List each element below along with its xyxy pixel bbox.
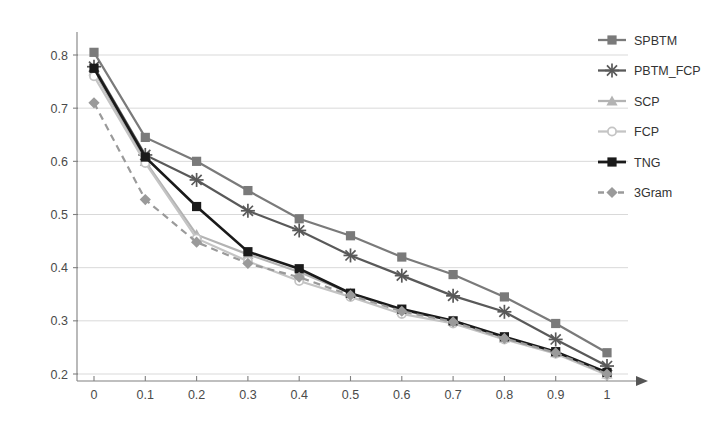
x-tick-label: 0.9 [547,388,564,402]
marker-square [141,133,150,142]
marker-asterisk [395,269,409,283]
x-tick-label: 1 [604,388,611,402]
marker-square [607,35,616,44]
marker-asterisk [446,289,460,303]
marker-asterisk [549,332,563,346]
data-series-layer [87,48,614,380]
x-tick-label: 0.2 [188,388,205,402]
marker-diamond [140,194,151,205]
line-chart: 0.20.30.40.50.60.70.8 00.10.20.30.40.50.… [0,0,716,423]
legend-item-label: SCP [634,95,660,109]
x-tick-label: 0.7 [444,388,461,402]
y-tick-label: 0.3 [51,314,68,328]
x-tick-label: 0.5 [342,388,359,402]
x-tick-label: 0.4 [291,388,308,402]
marker-square [607,157,616,166]
legend-item-3gram: 3Gram [598,186,672,200]
x-tick-label: 0.1 [137,388,154,402]
legend-item-scp: SCP [598,95,660,109]
chart-legend: SPBTMPBTM_FCPSCPFCPTNG3Gram [598,34,701,201]
marker-asterisk [605,64,619,78]
marker-asterisk [292,223,306,237]
x-tick-label: 0.6 [393,388,410,402]
x-axis-arrow-icon [636,376,648,386]
marker-square [89,64,98,73]
x-tick-label: 0.8 [496,388,513,402]
legend-item-pbtm-fcp: PBTM_FCP [598,64,701,79]
marker-square [397,252,406,261]
marker-asterisk [344,248,358,262]
y-tick-label: 0.2 [51,368,68,382]
series-line [94,71,607,374]
marker-circle-open [608,127,616,135]
x-tick-label: 0 [91,388,98,402]
legend-item-label: SPBTM [634,34,677,48]
marker-diamond [606,187,617,198]
legend-item-label: FCP [634,125,659,139]
marker-square [500,292,509,301]
y-tick-label: 0.5 [51,208,68,222]
y-axis-tick-labels: 0.20.30.40.50.60.70.8 [51,49,78,382]
marker-square [192,157,201,166]
marker-asterisk [241,204,255,218]
legend-item-spbtm: SPBTM [598,34,677,48]
marker-diamond [88,97,99,108]
marker-square [89,48,98,57]
series-fcp [90,72,611,379]
legend-item-tng: TNG [598,156,660,170]
marker-square [243,186,252,195]
legend-item-label: TNG [634,156,660,170]
marker-asterisk [497,305,511,319]
marker-square [346,231,355,240]
y-tick-label: 0.8 [51,49,68,63]
marker-square [243,247,252,256]
marker-square [192,202,201,211]
series-tng [89,64,611,377]
y-tick-label: 0.7 [51,102,68,116]
marker-asterisk [190,173,204,187]
legend-item-label: 3Gram [634,186,672,200]
gridlines [77,55,628,374]
chart-canvas: 0.20.30.40.50.60.70.8 00.10.20.30.40.50.… [0,0,716,423]
series-scp [88,65,612,378]
series-line [94,76,607,375]
marker-square [141,152,150,161]
x-axis-tick-labels: 00.10.20.30.40.50.60.70.80.91 [91,376,611,402]
axes [77,32,648,386]
series-spbtm [89,48,611,358]
y-tick-label: 0.6 [51,155,68,169]
marker-square [449,270,458,279]
x-tick-label: 0.3 [239,388,256,402]
marker-square [551,319,560,328]
legend-item-label: PBTM_FCP [634,64,701,78]
y-tick-label: 0.4 [51,261,68,275]
marker-square [295,214,304,223]
legend-item-fcp: FCP [598,125,659,139]
marker-square [602,348,611,357]
